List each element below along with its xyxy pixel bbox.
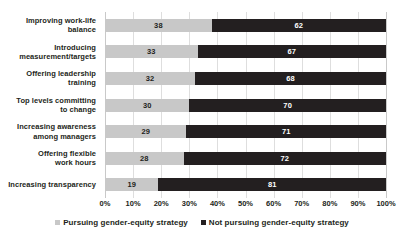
x-tick-label: 90% bbox=[350, 199, 365, 208]
x-tick-label: 0% bbox=[100, 199, 111, 208]
gridline-100pct bbox=[386, 12, 387, 198]
bar-value-label-pursuing: 38 bbox=[105, 19, 212, 32]
legend-label: Pursuing gender-equity strategy bbox=[63, 218, 188, 227]
bar-row: 3268 bbox=[105, 72, 386, 85]
bar-value-label-not-pursuing: 70 bbox=[189, 99, 386, 112]
x-tick-label: 70% bbox=[294, 199, 309, 208]
legend-swatch-icon bbox=[201, 220, 206, 225]
category-axis-labels: Improving work-lifebalanceIntroducingmea… bbox=[0, 12, 100, 198]
bar-value-label-pursuing: 28 bbox=[105, 152, 184, 165]
bar-row: 3367 bbox=[105, 45, 386, 58]
category-label: Top levels committingto change bbox=[0, 96, 96, 114]
bar-value-label-not-pursuing: 72 bbox=[184, 152, 386, 165]
plot-area: 3862336732683070297128721981 bbox=[105, 12, 386, 198]
bar-row: 2872 bbox=[105, 152, 386, 165]
bar-row: 3070 bbox=[105, 99, 386, 112]
stacked-bar-chart: Improving work-lifebalanceIntroducingmea… bbox=[0, 0, 404, 242]
legend-item[interactable]: Not pursuing gender-equity strategy bbox=[201, 218, 349, 227]
x-axis-tick-labels: 0%10%20%30%40%50%60%70%80%90%100% bbox=[105, 199, 386, 211]
x-tick-label: 80% bbox=[322, 199, 337, 208]
bar-row: 3862 bbox=[105, 19, 386, 32]
x-tick-label: 100% bbox=[376, 199, 395, 208]
category-label: Offering leadershiptraining bbox=[0, 69, 96, 87]
bar-value-label-not-pursuing: 67 bbox=[198, 45, 386, 58]
x-tick-label: 10% bbox=[126, 199, 141, 208]
category-label: Improving work-lifebalance bbox=[0, 16, 96, 34]
x-tick-label: 20% bbox=[154, 199, 169, 208]
bar-value-label-not-pursuing: 68 bbox=[195, 72, 386, 85]
bar-value-label-not-pursuing: 81 bbox=[158, 178, 386, 191]
bar-value-label-pursuing: 32 bbox=[105, 72, 195, 85]
category-label: Increasing transparency bbox=[0, 180, 96, 189]
chart-legend: Pursuing gender-equity strategyNot pursu… bbox=[0, 218, 404, 227]
bar-value-label-pursuing: 33 bbox=[105, 45, 198, 58]
bar-rows: 3862336732683070297128721981 bbox=[105, 12, 386, 198]
category-label: Offering flexiblework hours bbox=[0, 149, 96, 167]
x-tick-label: 40% bbox=[210, 199, 225, 208]
bar-row: 2971 bbox=[105, 125, 386, 138]
bar-value-label-pursuing: 29 bbox=[105, 125, 186, 138]
legend-label: Not pursuing gender-equity strategy bbox=[209, 218, 349, 227]
x-tick-label: 60% bbox=[266, 199, 281, 208]
category-label: Introducingmeasurement/targets bbox=[0, 43, 96, 61]
bar-row: 1981 bbox=[105, 178, 386, 191]
bar-value-label-not-pursuing: 62 bbox=[212, 19, 386, 32]
bar-value-label-not-pursuing: 71 bbox=[186, 125, 386, 138]
bar-value-label-pursuing: 30 bbox=[105, 99, 189, 112]
category-label: Increasing awarenessamong managers bbox=[0, 122, 96, 140]
bar-value-label-pursuing: 19 bbox=[105, 178, 158, 191]
legend-swatch-icon bbox=[55, 220, 60, 225]
x-tick-label: 50% bbox=[238, 199, 253, 208]
x-tick-label: 30% bbox=[182, 199, 197, 208]
legend-item[interactable]: Pursuing gender-equity strategy bbox=[55, 218, 188, 227]
